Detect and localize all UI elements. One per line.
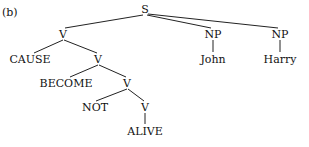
edge-V3-NOT: [96, 89, 127, 101]
edge-S-V1: [65, 15, 143, 28]
edge-S-NP2: [148, 14, 278, 28]
node-ALIVE: ALIVE: [126, 125, 163, 138]
node-V1: V: [58, 28, 68, 41]
node-John: John: [199, 53, 225, 66]
node-NP2: NP: [271, 28, 289, 41]
node-S: S: [141, 3, 149, 16]
node-BECOME: BECOME: [40, 77, 93, 90]
node-V4: V: [140, 101, 150, 114]
syntax-tree-diagram: (b) S V CAUSE V BECOME V NOT V ALIVE NP …: [0, 0, 309, 147]
node-V2: V: [93, 53, 103, 66]
edge-V3-V4: [128, 89, 144, 101]
node-Harry: Harry: [264, 53, 298, 66]
edge-V1-V2: [64, 40, 97, 53]
node-V3: V: [122, 77, 132, 90]
tree-labels: (b) S V CAUSE V BECOME V NOT V ALIVE NP …: [2, 3, 297, 138]
tree-edges: [34, 14, 280, 124]
node-CAUSE: CAUSE: [9, 53, 50, 66]
edge-V1-CAUSE: [34, 40, 63, 53]
edge-V2-BECOME: [70, 65, 98, 77]
edge-V2-V3: [99, 65, 126, 77]
figure-label: (b): [2, 6, 18, 19]
node-NP1: NP: [204, 28, 222, 41]
node-NOT: NOT: [82, 101, 109, 114]
